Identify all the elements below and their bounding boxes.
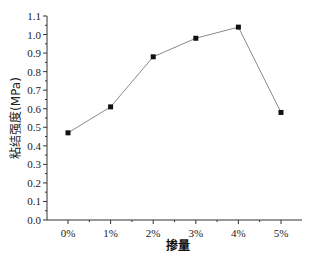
data-point-marker	[151, 54, 156, 59]
x-tick-label: 0%	[61, 227, 76, 239]
x-axis-title: 掺量	[166, 238, 190, 253]
data-point-marker	[236, 25, 241, 30]
data-point-marker	[108, 104, 113, 109]
y-tick-label: 0.3	[27, 158, 41, 170]
y-tick-label: 0.8	[27, 66, 41, 78]
y-tick-label: 1.0	[27, 29, 41, 41]
x-tick-label: 4%	[231, 227, 246, 239]
x-tick-label: 2%	[146, 227, 161, 239]
x-axis: 0%1%2%3%4%5%	[47, 220, 302, 239]
y-tick-label: 0.0	[27, 214, 41, 226]
bond-strength-chart: 0.00.10.20.30.40.50.60.70.80.91.01.1 0%1…	[0, 0, 309, 261]
y-tick-label: 0.4	[27, 140, 41, 152]
y-tick-label: 0.1	[27, 195, 41, 207]
y-tick-label: 0.2	[27, 177, 41, 189]
y-axis: 0.00.10.20.30.40.50.60.70.80.91.01.1	[27, 10, 47, 226]
x-tick-label: 5%	[274, 227, 289, 239]
series-line	[68, 27, 281, 133]
y-axis-title: 粘结强度(MPa)	[8, 77, 23, 159]
data-point-marker	[66, 130, 71, 135]
y-tick-label: 0.9	[27, 47, 41, 59]
y-tick-label: 0.6	[27, 103, 41, 115]
data-point-marker	[193, 36, 198, 41]
x-tick-label: 1%	[103, 227, 118, 239]
y-tick-label: 0.7	[27, 84, 41, 96]
y-tick-label: 0.5	[27, 121, 41, 133]
data-point-marker	[279, 110, 284, 115]
y-tick-label: 1.1	[27, 10, 41, 22]
x-tick-label: 3%	[188, 227, 203, 239]
data-series	[66, 25, 284, 136]
